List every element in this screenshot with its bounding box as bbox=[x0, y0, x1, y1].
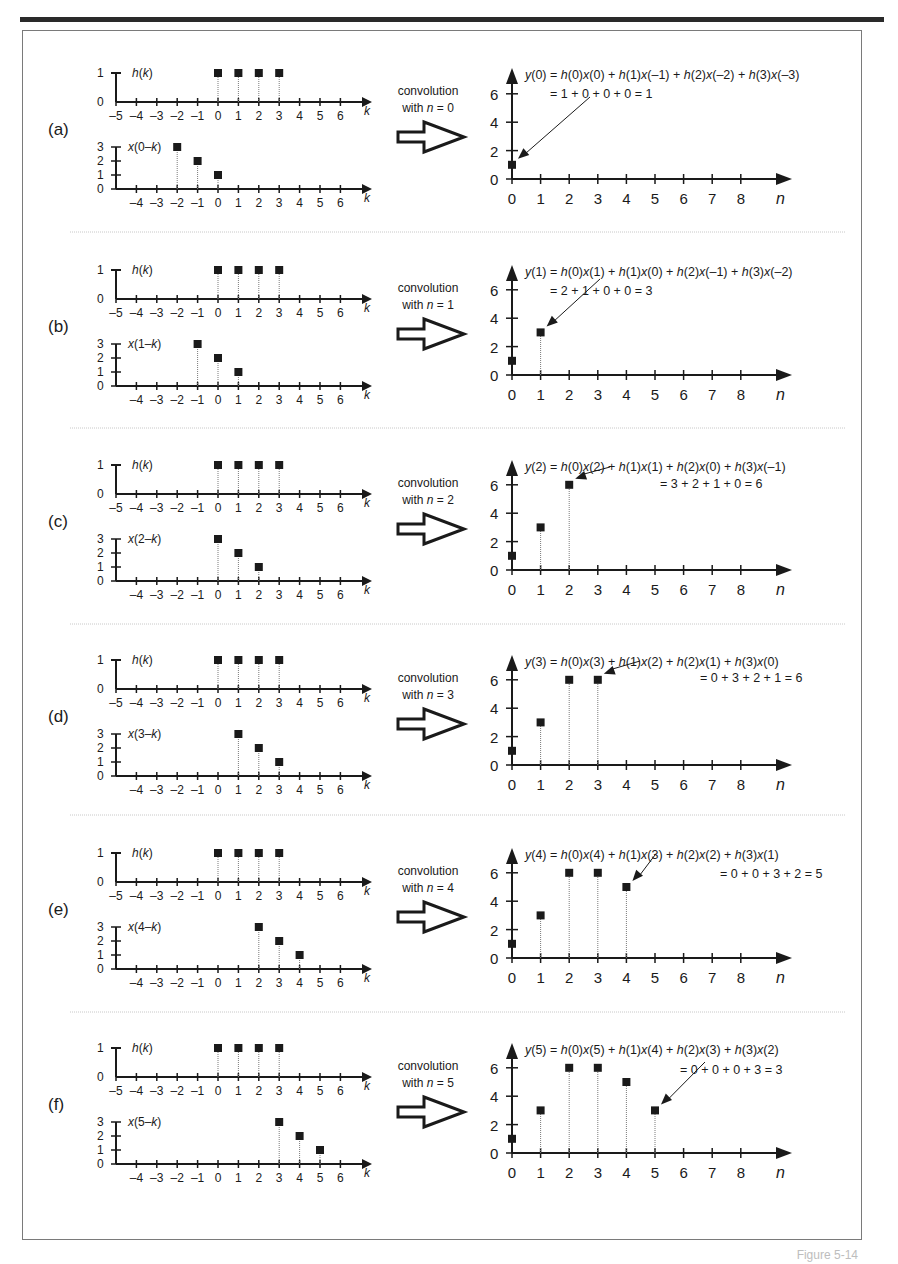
y-tick-label: 6 bbox=[490, 86, 498, 103]
convolution-n-label: with n = 5 bbox=[401, 1076, 454, 1090]
h-marker bbox=[255, 656, 263, 664]
k-tick-label: –2 bbox=[171, 889, 185, 903]
right-arrow-icon bbox=[398, 514, 464, 544]
n-tick-label: 0 bbox=[508, 1164, 516, 1181]
x-ylabel: 2 bbox=[97, 934, 104, 948]
y-marker bbox=[622, 1078, 630, 1086]
k-tick-label: 0 bbox=[215, 196, 222, 210]
h-marker bbox=[275, 266, 283, 274]
k-tick-label: 6 bbox=[337, 109, 344, 123]
convolution-label: convolution bbox=[398, 1059, 459, 1073]
k-axis-label: k bbox=[364, 388, 371, 402]
k-tick-label: –3 bbox=[150, 306, 164, 320]
k-tick-label: 2 bbox=[255, 196, 262, 210]
x-marker bbox=[173, 143, 181, 151]
n-tick-label: 4 bbox=[622, 776, 630, 793]
n-tick-label: 5 bbox=[651, 1164, 659, 1181]
h-marker bbox=[214, 849, 222, 857]
x-marker bbox=[255, 563, 263, 571]
k-tick-label: –4 bbox=[130, 783, 144, 797]
k-tick-label: –4 bbox=[130, 696, 144, 710]
k-tick-label: –1 bbox=[191, 976, 205, 990]
k-tick-label: 6 bbox=[337, 501, 344, 515]
n-tick-label: 2 bbox=[565, 776, 573, 793]
h-marker bbox=[234, 656, 242, 664]
k-tick-label: –4 bbox=[130, 306, 144, 320]
k-tick-label: 4 bbox=[296, 1084, 303, 1098]
h-marker bbox=[214, 1044, 222, 1052]
k-tick-label: 5 bbox=[317, 588, 324, 602]
k-tick-label: 3 bbox=[276, 588, 283, 602]
k-tick-label: 4 bbox=[296, 393, 303, 407]
convolution-result: = 0 + 0 + 3 + 2 = 5 bbox=[720, 867, 823, 881]
n-tick-label: 1 bbox=[536, 776, 544, 793]
k-tick-label: –4 bbox=[130, 1171, 144, 1185]
right-arrow-icon bbox=[398, 709, 464, 739]
y-yaxis-arrow bbox=[506, 1043, 518, 1059]
k-tick-label: 2 bbox=[255, 1171, 262, 1185]
k-axis-label: k bbox=[364, 191, 371, 205]
x-marker bbox=[275, 937, 283, 945]
n-axis-arrow bbox=[776, 173, 792, 185]
x-marker bbox=[255, 923, 263, 931]
h-marker bbox=[214, 461, 222, 469]
x-ylabel: 3 bbox=[97, 337, 104, 351]
k-tick-label: 3 bbox=[276, 306, 283, 320]
x-marker bbox=[316, 1146, 324, 1154]
k-tick-label: 6 bbox=[337, 889, 344, 903]
y-tick-label: 0 bbox=[490, 950, 498, 967]
convolution-result: = 0 + 0 + 0 + 3 = 3 bbox=[680, 1063, 783, 1077]
n-tick-label: 1 bbox=[536, 1164, 544, 1181]
h-marker bbox=[255, 461, 263, 469]
x-ylabel: 1 bbox=[97, 560, 104, 574]
k-tick-label: –1 bbox=[191, 109, 205, 123]
k-tick-label: –2 bbox=[171, 306, 185, 320]
y-marker bbox=[537, 328, 545, 336]
x-marker bbox=[296, 951, 304, 959]
k-tick-label: –3 bbox=[150, 976, 164, 990]
pointer-line bbox=[524, 97, 590, 155]
k-tick-label: –4 bbox=[130, 501, 144, 515]
convolution-label: convolution bbox=[398, 671, 459, 685]
right-arrow-icon bbox=[398, 122, 464, 152]
y-marker bbox=[537, 718, 545, 726]
k-axis-label: k bbox=[364, 496, 371, 510]
h-ylabel-1: 1 bbox=[97, 263, 104, 277]
n-tick-label: 6 bbox=[679, 386, 687, 403]
panel-letter: (b) bbox=[48, 317, 69, 336]
convolution-label: convolution bbox=[398, 476, 459, 490]
convolution-equation: y(3) = h(0)x(3) + h(1)x(2) + h(2)x(1) + … bbox=[524, 655, 779, 669]
k-tick-label: –3 bbox=[150, 1171, 164, 1185]
x-ylabel: 1 bbox=[97, 755, 104, 769]
y-tick-label: 0 bbox=[490, 757, 498, 774]
y-marker bbox=[537, 911, 545, 919]
y-marker bbox=[565, 869, 573, 877]
k-tick-label: 3 bbox=[276, 783, 283, 797]
h-marker bbox=[275, 1044, 283, 1052]
convolution-n-label: with n = 1 bbox=[401, 298, 454, 312]
x-marker bbox=[275, 1118, 283, 1126]
k-tick-label: –2 bbox=[171, 696, 185, 710]
n-tick-label: 1 bbox=[536, 190, 544, 207]
k-tick-label: 1 bbox=[235, 889, 242, 903]
y-marker bbox=[508, 747, 516, 755]
h-marker bbox=[275, 461, 283, 469]
right-arrow-icon bbox=[398, 902, 464, 932]
k-tick-label: 2 bbox=[255, 1084, 262, 1098]
h-marker bbox=[214, 656, 222, 664]
k-tick-label: –2 bbox=[171, 109, 185, 123]
x-ylabel: 0 bbox=[97, 574, 104, 588]
k-tick-label: 4 bbox=[296, 588, 303, 602]
x-label: x(1–k) bbox=[127, 337, 161, 351]
h-ylabel-0: 0 bbox=[97, 682, 104, 696]
k-tick-label: –1 bbox=[191, 783, 205, 797]
n-tick-label: 4 bbox=[622, 581, 630, 598]
k-tick-label: 1 bbox=[235, 783, 242, 797]
k-tick-label: 2 bbox=[255, 393, 262, 407]
x-ylabel: 0 bbox=[97, 182, 104, 196]
k-tick-label: 2 bbox=[255, 783, 262, 797]
k-tick-label: –1 bbox=[191, 393, 205, 407]
convolution-result: = 3 + 2 + 1 + 0 = 6 bbox=[660, 477, 763, 491]
n-tick-label: 6 bbox=[679, 776, 687, 793]
panel-c: (c)10h(k)–5–4–3–2–10123456k0123x(2–k)–4–… bbox=[48, 458, 792, 602]
